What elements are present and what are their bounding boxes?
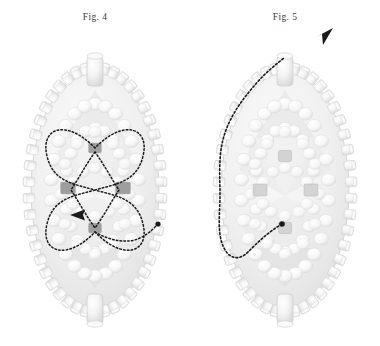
- portal-top-rim: [87, 53, 103, 59]
- capsomere-bead: [77, 166, 90, 177]
- capsomere-bead: [242, 233, 256, 246]
- capsomere-cylinder-cap: [214, 211, 218, 219]
- capsomere-bead: [297, 238, 310, 249]
- capsomere-bead: [267, 166, 280, 177]
- capsomere-bead: [279, 248, 292, 259]
- capsomere-cylinder: [213, 193, 225, 203]
- capsomere-cylinder: [216, 225, 229, 237]
- capsomere-bead: [108, 108, 122, 121]
- capsomere-cylinder-cap: [213, 194, 216, 202]
- capsomere-bead: [267, 100, 281, 113]
- capsomere-cylinder: [345, 193, 357, 203]
- capsomere-bead: [279, 162, 292, 173]
- capsomere-cylinder: [344, 209, 356, 220]
- capsomere-bead: [44, 173, 58, 186]
- capsomere-bead: [107, 138, 120, 149]
- capsomere-cylinder-cap: [352, 161, 356, 169]
- capsomere-bead: [249, 158, 262, 169]
- capsomere-bead: [261, 138, 274, 149]
- capsomere-cylinder: [345, 177, 357, 187]
- capsomere-bead: [261, 238, 274, 249]
- capsomere-bead: [279, 210, 292, 221]
- capsomere-bead: [298, 108, 312, 121]
- capsomere-cylinder: [154, 209, 166, 220]
- figure-panel-fig5: Fig. 5: [190, 0, 380, 346]
- capsomere-cylinder-cap: [23, 177, 26, 185]
- capsomere-cylinder: [26, 144, 39, 156]
- capsomere-cylinder-cap: [24, 211, 28, 219]
- capsomere-bead: [71, 138, 84, 149]
- path-arrowhead-fig5: [316, 28, 333, 45]
- portal-bottom-body: [87, 294, 103, 324]
- capsomere-cylinder: [155, 177, 167, 187]
- capsomere-bead: [314, 135, 328, 148]
- capsomere-bead: [131, 173, 145, 186]
- marker-top: [279, 151, 292, 162]
- capsomere-cylinder-cap: [23, 194, 26, 202]
- marker-left: [253, 184, 267, 196]
- capsomere-bead: [291, 166, 304, 177]
- capsomere-bead: [309, 158, 322, 169]
- portal-bottom-fig5: [277, 294, 293, 327]
- capsomere-bead: [52, 135, 66, 148]
- capsomere-bead: [89, 210, 102, 221]
- capsomere-cylinder-cap: [353, 177, 356, 185]
- capsomere-bead: [124, 135, 138, 148]
- capsomere-bead: [52, 233, 66, 246]
- capsomere-cylinder-cap: [214, 161, 218, 169]
- portal-bottom-rim: [87, 321, 103, 327]
- capsomere-bead: [59, 158, 72, 169]
- capsomere-bead: [314, 233, 328, 246]
- capsomere-bead: [119, 158, 132, 169]
- capsomere-bead: [309, 218, 322, 229]
- capsomere-bead: [297, 138, 310, 149]
- capsomere-bead: [307, 248, 321, 261]
- capsomere-bead: [101, 166, 114, 177]
- capsomere-cylinder: [344, 160, 356, 171]
- portal-top-rim: [277, 53, 293, 59]
- capsomere-cylinder-cap: [352, 211, 356, 219]
- capsomere-cylinder: [23, 177, 35, 187]
- figure-panel-fig4: Fig. 4: [0, 0, 190, 346]
- capsomere-bead: [67, 260, 81, 273]
- portal-top-fig4: [87, 53, 103, 86]
- capsomere-cylinder-cap: [162, 211, 166, 219]
- capsomere-bead: [77, 100, 91, 113]
- capsomere-bead: [321, 173, 335, 186]
- capsomere-bead: [257, 198, 270, 209]
- capsid-diagram-fig4: [0, 0, 190, 346]
- figure-sheet: Fig. 4 Fig. 5: [0, 0, 380, 346]
- capsomere-bead: [242, 135, 256, 148]
- capsomere-bead: [307, 119, 321, 132]
- portal-bottom-fig4: [87, 294, 103, 327]
- capsomere-bead: [59, 218, 72, 229]
- capsomere-cylinder-cap: [163, 194, 166, 202]
- portal-top-fig5: [277, 53, 293, 86]
- capsomere-bead: [89, 162, 102, 173]
- capsomere-bead: [249, 119, 263, 132]
- capsomere-cylinder: [24, 209, 36, 220]
- portal-top-body: [277, 56, 293, 86]
- capsomere-bead: [89, 126, 102, 137]
- capsomere-bead: [249, 218, 262, 229]
- path-endpoint-dot-fig4: [155, 221, 160, 226]
- capsomere-bead: [119, 218, 132, 229]
- capsomere-cylinder-cap: [213, 177, 216, 185]
- capsomere-cylinder: [26, 225, 39, 237]
- capsomere-cylinder: [23, 193, 35, 203]
- capsomere-cylinder: [155, 193, 167, 203]
- portal-top-body: [87, 56, 103, 86]
- marker-right: [304, 184, 318, 196]
- capsomere-bead: [257, 260, 271, 273]
- capsomere-bead: [301, 198, 314, 209]
- capsomere-cylinder-cap: [162, 161, 166, 169]
- capsid-diagram-fig5: [190, 0, 380, 346]
- capsomere-bead: [279, 126, 292, 137]
- capsomere-cylinder: [151, 144, 164, 156]
- capsomere-cylinder: [154, 160, 166, 171]
- capsomere-cylinder-cap: [24, 161, 28, 169]
- path-endpoint-dot-fig5: [279, 221, 285, 227]
- portal-bottom-body: [277, 294, 293, 324]
- capsomere-cylinder: [341, 144, 354, 156]
- capsomere-cylinder: [341, 225, 354, 237]
